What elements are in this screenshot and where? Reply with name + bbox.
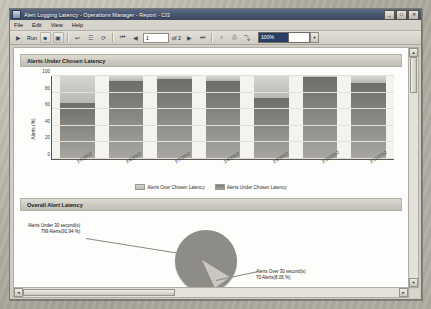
run-label[interactable]: Run [26, 35, 38, 41]
y-axis-tick-label: 40 [45, 118, 50, 123]
bar-segment-over [254, 76, 289, 98]
bar-segment-under [109, 81, 144, 159]
last-page-icon[interactable]: ⏭ [197, 32, 208, 43]
refresh-icon[interactable]: ⟳ [98, 32, 109, 43]
pie-label-over: Alerts Over 30 second(s) 70 Alerts(8.06 … [256, 269, 306, 281]
menu-edit[interactable]: Edit [32, 22, 42, 28]
menu-view[interactable]: View [51, 22, 63, 28]
bar-column [109, 76, 144, 159]
zoom-combo[interactable]: 100% ▼ [258, 32, 319, 43]
legend-label-over: Alerts Over Chosen Latency [147, 185, 204, 190]
bar-segment-under [303, 77, 338, 159]
page-count-label: of 2 [171, 35, 182, 41]
scrollbar-corner [410, 289, 419, 298]
y-axis-tick-label: 80 [45, 85, 50, 90]
bar-series-group [52, 76, 394, 159]
search-icon[interactable]: ⌕ [216, 32, 227, 43]
pie-label-under: Alerts Under 30 second(s) 799 Alerts(91.… [28, 223, 80, 235]
new-window-icon[interactable]: ▣ [53, 32, 64, 43]
pie-slice-under [175, 230, 237, 288]
window-title-bar[interactable]: Alert Logging Latency - Operations Manag… [10, 9, 421, 20]
minimize-button[interactable]: _ [384, 10, 395, 20]
pie-label-under-line2: 799 Alerts(91.94 %) [28, 229, 80, 235]
bar-chart-x-axis-labels: 2/5/20122/6/20122/7/20122/8/20122/9/2012… [51, 160, 394, 176]
report-window: Alert Logging Latency - Operations Manag… [9, 8, 422, 300]
bar-segment-under [351, 83, 386, 159]
bar-column [157, 76, 192, 159]
print-icon[interactable]: ⎙ [229, 32, 240, 43]
report-toolbar: ▶ Run ■ ▣ ↩ ☲ ⟳ ⏮ ◀ 1 of 2 ▶ ⏭ ⌕ ⎙ ⤵ 100… [10, 31, 421, 45]
report-window-icon [12, 10, 21, 19]
y-axis-tick-label: 60 [45, 102, 50, 107]
window-title: Alert Logging Latency - Operations Manag… [24, 12, 384, 18]
legend-swatch-over [135, 184, 145, 190]
toolbar-separator [112, 33, 114, 42]
prev-page-icon[interactable]: ◀ [130, 32, 141, 43]
back-icon[interactable]: ↩ [72, 32, 83, 43]
bar-chart-plot-area: 020406080100 [51, 76, 394, 160]
bar-column [254, 76, 289, 159]
section-overall-alert-latency: Overall Alert Latency [20, 198, 402, 211]
zoom-combo-field[interactable] [289, 32, 310, 43]
vertical-scroll-track[interactable] [409, 93, 418, 278]
scroll-down-icon[interactable]: ▼ [409, 278, 418, 287]
horizontal-scroll-track[interactable] [175, 288, 399, 297]
bar-column [206, 76, 241, 159]
horizontal-scrollbar[interactable]: ◄ ► [13, 287, 409, 298]
grid-line [52, 108, 394, 109]
toolbar-separator [67, 33, 69, 42]
bar-column [351, 76, 386, 159]
legend-item-over: Alerts Over Chosen Latency [135, 184, 204, 190]
scroll-right-icon[interactable]: ► [399, 288, 408, 297]
grid-line [52, 75, 394, 76]
grid-line [52, 141, 394, 142]
desktop-background: Alert Logging Latency - Operations Manag… [0, 0, 431, 309]
grid-line [52, 92, 394, 93]
run-report-icon[interactable]: ▶ [13, 32, 24, 43]
grid-line [52, 125, 394, 126]
report-page: Alerts Under Chosen Latency Alerts (%) 0… [13, 47, 409, 288]
pie-label-over-line2: 70 Alerts(8.06 %) [256, 275, 306, 281]
first-page-icon[interactable]: ⏮ [117, 32, 128, 43]
y-axis-tick-label: 20 [45, 135, 50, 140]
bar-chart: Alerts (%) 020406080100 2/5/20122/6/2012… [20, 70, 402, 188]
section-alerts-under-chosen-latency: Alerts Under Chosen Latency [20, 54, 402, 67]
stop-icon[interactable]: ■ [40, 32, 51, 43]
bar-chart-legend: Alerts Over Chosen Latency Alerts Under … [20, 184, 402, 190]
menu-file[interactable]: File [14, 22, 23, 28]
zoom-value[interactable]: 100% [258, 32, 289, 43]
bar-column [303, 76, 338, 159]
bar-chart-y-axis-label: Alerts (%) [31, 118, 36, 139]
vertical-scrollbar[interactable]: ▲ ▼ [408, 47, 419, 288]
horizontal-scroll-thumb[interactable] [23, 289, 175, 296]
chevron-down-icon[interactable]: ▼ [310, 32, 319, 43]
parameters-icon[interactable]: ☲ [85, 32, 96, 43]
bar-segment-under [254, 98, 289, 159]
toolbar-separator [211, 33, 213, 42]
bar-segment-under [206, 81, 241, 159]
window-controls: _ □ ✕ [384, 10, 419, 20]
maximize-button[interactable]: □ [396, 10, 407, 20]
vertical-scroll-thumb[interactable] [410, 57, 417, 93]
menu-bar: File Edit View Help [10, 20, 421, 31]
menu-help[interactable]: Help [72, 22, 84, 28]
legend-swatch-under [215, 184, 225, 190]
bar-segment-over [60, 76, 95, 103]
next-page-icon[interactable]: ▶ [184, 32, 195, 43]
bar-column [60, 76, 95, 159]
page-number-input[interactable]: 1 [143, 33, 169, 43]
legend-item-under: Alerts Under Chosen Latency [215, 184, 287, 190]
section-title: Alerts Under Chosen Latency [27, 58, 105, 64]
pie-chart-graphic [175, 230, 237, 288]
scroll-up-icon[interactable]: ▲ [409, 48, 418, 57]
pie-leader-under [86, 238, 177, 253]
y-axis-tick-label: 100 [42, 69, 50, 74]
legend-label-under: Alerts Under Chosen Latency [227, 185, 287, 190]
close-button[interactable]: ✕ [408, 10, 419, 20]
export-icon[interactable]: ⤵ [242, 32, 253, 43]
section-title: Overall Alert Latency [27, 202, 83, 208]
pie-chart: Alerts Under 30 second(s) 799 Alerts(91.… [20, 214, 402, 288]
scroll-left-icon[interactable]: ◄ [14, 288, 23, 297]
report-viewer: Alerts Under Chosen Latency Alerts (%) 0… [10, 45, 421, 299]
bar-segment-over [351, 76, 386, 83]
